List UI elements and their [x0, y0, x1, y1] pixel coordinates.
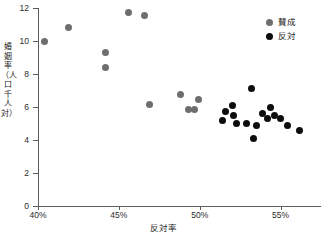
data-point-agree [102, 64, 109, 71]
x-axis-line [38, 206, 321, 207]
y-tick-mark [33, 107, 38, 108]
legend-marker-agree-icon [266, 19, 273, 26]
y-tick-label: 2 [3, 169, 29, 178]
y-tick-label: 0 [3, 202, 29, 211]
y-tick-label: 12 [3, 4, 29, 13]
y-tick-mark [33, 41, 38, 42]
data-point-agree [146, 101, 153, 108]
x-tick-label: 45% [99, 211, 139, 220]
y-axis-line [38, 8, 39, 206]
y-axis-title: 婚姻率（人口千人対） [1, 42, 15, 118]
data-point-agree [41, 38, 48, 45]
data-point-oppose [233, 120, 240, 127]
data-point-oppose [243, 120, 250, 127]
y-tick-mark [33, 173, 38, 174]
data-point-agree [125, 9, 132, 16]
x-tick-label: 55% [261, 211, 301, 220]
data-point-oppose [253, 122, 260, 129]
chart-legend: 賛成 反対 [266, 16, 324, 44]
legend-label-agree: 賛成 [278, 18, 296, 27]
data-point-oppose [248, 85, 255, 92]
y-tick-label: 4 [3, 136, 29, 145]
legend-item-oppose[interactable]: 反対 [266, 30, 324, 42]
data-point-agree [65, 24, 72, 31]
data-point-agree [195, 96, 202, 103]
legend-marker-oppose-icon [266, 33, 273, 40]
data-point-agree [102, 49, 109, 56]
data-point-agree [177, 91, 184, 98]
data-point-oppose [267, 104, 274, 111]
legend-item-agree[interactable]: 賛成 [266, 16, 324, 28]
x-tick-label: 50% [180, 211, 220, 220]
data-point-oppose [284, 122, 291, 129]
y-tick-mark [33, 74, 38, 75]
y-tick-mark [33, 8, 38, 9]
data-point-agree [191, 106, 198, 113]
legend-label-oppose: 反対 [278, 32, 296, 41]
y-tick-mark [33, 140, 38, 141]
data-point-oppose [230, 112, 237, 119]
scatter-chart: 024681012 40%45%50%55% 婚姻率（人口千人対） 反対率 賛成… [0, 0, 327, 236]
data-point-agree [141, 12, 148, 19]
data-point-oppose [222, 108, 229, 115]
data-point-oppose [296, 127, 303, 134]
x-tick-label: 40% [18, 211, 58, 220]
data-point-oppose [229, 102, 236, 109]
data-point-oppose [219, 117, 226, 124]
data-point-oppose [250, 135, 257, 142]
data-point-oppose [277, 115, 284, 122]
x-axis-title: 反対率 [0, 221, 327, 233]
